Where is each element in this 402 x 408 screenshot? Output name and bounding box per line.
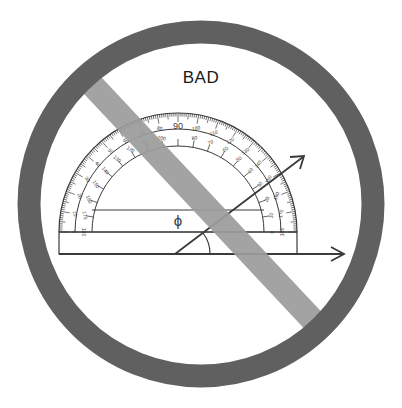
scale-tick bbox=[271, 162, 274, 164]
scale-tick bbox=[69, 184, 72, 185]
scale-tick bbox=[91, 151, 94, 153]
scale-tick bbox=[249, 138, 251, 141]
scale-tick bbox=[68, 187, 71, 188]
scale-tick bbox=[68, 186, 71, 187]
scale-tick bbox=[157, 115, 159, 124]
outer-scale-label: 40 bbox=[94, 160, 102, 168]
scale-tick bbox=[216, 119, 217, 122]
outer-scale-label: 170 bbox=[277, 209, 284, 218]
scale-tick bbox=[219, 121, 220, 124]
scale-tick bbox=[270, 160, 273, 162]
scale-tick bbox=[75, 173, 83, 178]
scale-tick bbox=[59, 222, 65, 223]
scale-tick bbox=[276, 169, 279, 171]
scale-tick bbox=[83, 160, 86, 162]
scale-tick bbox=[61, 211, 70, 213]
scale-tick bbox=[145, 118, 146, 121]
inner-scale-label: 10 bbox=[267, 212, 274, 219]
scale-tick bbox=[61, 209, 64, 210]
scale-tick bbox=[92, 149, 95, 151]
scale-tick bbox=[210, 118, 211, 121]
scale-tick bbox=[168, 113, 169, 119]
scale-tick bbox=[115, 131, 117, 134]
scale-tick bbox=[291, 207, 294, 208]
scale-tick bbox=[248, 137, 250, 140]
scale-tick bbox=[284, 186, 287, 187]
outer-scale-label: 10 bbox=[72, 210, 79, 217]
scale-tick bbox=[229, 125, 231, 128]
scale-tick bbox=[60, 213, 63, 214]
scale-tick bbox=[282, 180, 285, 182]
outer-scale-label: 180 bbox=[279, 228, 285, 237]
outer-scale-label: 90 bbox=[173, 121, 183, 131]
scale-tick bbox=[223, 122, 224, 125]
inner-scale-label: 80 bbox=[191, 134, 198, 141]
scale-tick bbox=[285, 187, 288, 188]
scale-tick bbox=[100, 142, 102, 145]
inner-scale-label: 160 bbox=[85, 194, 94, 204]
scale-tick bbox=[149, 117, 150, 120]
scale-tick bbox=[286, 211, 295, 213]
inner-scale-label: 150 bbox=[92, 179, 101, 189]
scale-tick bbox=[79, 165, 82, 167]
outer-scale-label: 110 bbox=[209, 128, 219, 136]
scale-tick bbox=[265, 154, 268, 156]
scale-tick bbox=[287, 193, 290, 194]
outer-scale-label: 140 bbox=[253, 159, 263, 169]
scale-tick bbox=[226, 124, 229, 129]
scale-tick bbox=[207, 117, 209, 123]
scale-tick bbox=[105, 138, 107, 141]
scale-tick bbox=[261, 149, 264, 151]
scale-tick bbox=[65, 195, 68, 196]
scale-tick bbox=[237, 130, 239, 133]
bad-protractor-usage-diagram: 0102030405060708090100110120130140150160… bbox=[0, 0, 402, 408]
scale-tick bbox=[221, 122, 222, 125]
scale-tick bbox=[76, 171, 79, 173]
scale-tick bbox=[117, 130, 119, 133]
angle-arc bbox=[203, 233, 210, 254]
scale-tick bbox=[291, 222, 297, 223]
scale-tick bbox=[153, 116, 154, 119]
scale-tick bbox=[70, 182, 75, 185]
scale-tick bbox=[262, 156, 269, 162]
scale-tick bbox=[74, 174, 77, 176]
scale-tick bbox=[86, 157, 89, 159]
scale-tick bbox=[288, 197, 291, 198]
scale-tick bbox=[67, 189, 70, 190]
outer-scale-label: 120 bbox=[225, 136, 235, 145]
scale-tick bbox=[159, 114, 160, 117]
scale-tick bbox=[95, 146, 97, 149]
scale-tick bbox=[103, 140, 105, 143]
center-mark-icon: ϕ bbox=[174, 212, 182, 229]
scale-tick bbox=[249, 141, 255, 148]
inner-scale-label: 70 bbox=[207, 138, 214, 146]
scale-tick bbox=[234, 128, 236, 131]
scale-tick bbox=[262, 151, 265, 153]
prohibition-slash bbox=[80, 72, 322, 330]
scale-tick bbox=[284, 184, 287, 185]
scale-tick bbox=[239, 131, 241, 134]
scale-tick bbox=[113, 132, 115, 135]
slash-band bbox=[80, 72, 322, 330]
inner-scale-label: 130 bbox=[112, 154, 122, 164]
scale-tick bbox=[246, 136, 248, 139]
inner-scale-label: 0 bbox=[269, 230, 275, 233]
scale-tick bbox=[108, 136, 110, 139]
scale-tick bbox=[280, 176, 283, 178]
scale-tick bbox=[77, 169, 80, 171]
scale-tick bbox=[212, 118, 213, 121]
scale-tick bbox=[202, 116, 203, 119]
inner-scale-label: 60 bbox=[221, 145, 229, 153]
scale-tick bbox=[280, 182, 285, 185]
outer-scale-label: 30 bbox=[84, 175, 92, 183]
scale-tick bbox=[97, 145, 99, 148]
inner-scale-tick bbox=[193, 140, 194, 147]
scale-tick bbox=[269, 159, 272, 161]
scale-tick bbox=[255, 144, 257, 147]
inner-scale-label: 170 bbox=[81, 211, 88, 220]
scale-tick bbox=[275, 167, 278, 169]
outer-scale-label: 50 bbox=[107, 147, 115, 155]
scale-tick bbox=[264, 152, 267, 154]
slash-band-group bbox=[80, 72, 322, 330]
scale-tick bbox=[290, 203, 293, 204]
